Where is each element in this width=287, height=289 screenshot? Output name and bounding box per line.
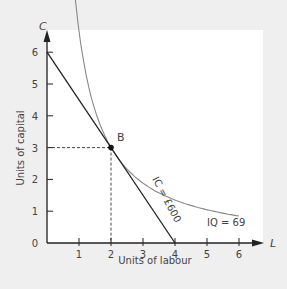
chart-svg: CL1234560123456Units of labourUnits of c… — [0, 0, 287, 289]
point-b-marker — [108, 145, 114, 151]
y-axis-letter: C — [39, 20, 47, 33]
y-axis-label: Units of capital — [15, 110, 26, 185]
y-tick-label: 2 — [32, 174, 38, 185]
chart: CL1234560123456Units of labourUnits of c… — [0, 0, 287, 289]
y-tick-label: 6 — [32, 47, 38, 58]
point-b-label: B — [117, 131, 125, 144]
y-tick-label: 4 — [32, 111, 38, 122]
y-tick-label: 3 — [32, 143, 38, 154]
isoquant-label: IQ = 69 — [207, 217, 245, 228]
x-tick-label: 1 — [76, 249, 82, 260]
y-tick-label: 5 — [32, 79, 38, 90]
x-tick-label: 2 — [108, 249, 114, 260]
x-tick-label: 6 — [236, 249, 242, 260]
plot-area — [48, 30, 263, 243]
y-tick-label: 0 — [32, 238, 38, 249]
x-axis-label: Units of labour — [118, 255, 192, 266]
x-axis-letter: L — [270, 237, 276, 250]
y-tick-label: 1 — [32, 206, 38, 217]
x-tick-label: 5 — [204, 249, 210, 260]
